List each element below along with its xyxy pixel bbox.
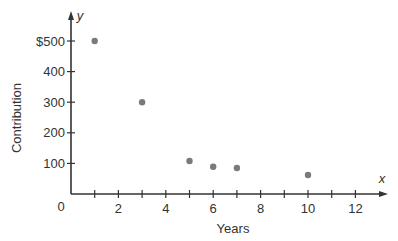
scatter-chart: 24681012100200300400$500 0 x y Years Con…: [0, 0, 398, 241]
x-tick-label: 10: [301, 201, 315, 216]
x-axis-arrow-icon: [379, 191, 388, 197]
y-axis-title: Contribution: [9, 83, 24, 153]
y-tick-label: 300: [43, 95, 65, 110]
data-point: [234, 165, 240, 171]
y-tick-label: 200: [43, 125, 65, 140]
x-tick-label: 12: [348, 201, 362, 216]
data-point: [139, 99, 145, 105]
data-point: [210, 164, 216, 170]
data-point: [305, 172, 311, 178]
ticks: 24681012100200300400$500: [36, 34, 363, 217]
data-point: [92, 38, 98, 44]
y-tick-label: 400: [43, 64, 65, 79]
y-tick-label: 100: [43, 156, 65, 171]
x-tick-label: 6: [210, 201, 217, 216]
y-tick-label: $500: [36, 34, 65, 49]
x-axis-title: Years: [217, 221, 250, 236]
origin-label: 0: [57, 199, 64, 214]
x-tick-label: 2: [115, 201, 122, 216]
y-axis-variable: y: [76, 8, 85, 23]
axes: [68, 11, 388, 197]
x-axis-variable: x: [378, 171, 386, 186]
data-points: [92, 38, 312, 178]
x-tick-label: 8: [257, 201, 264, 216]
x-tick-label: 4: [162, 201, 169, 216]
y-axis-arrow-icon: [68, 11, 74, 20]
data-point: [186, 158, 192, 164]
